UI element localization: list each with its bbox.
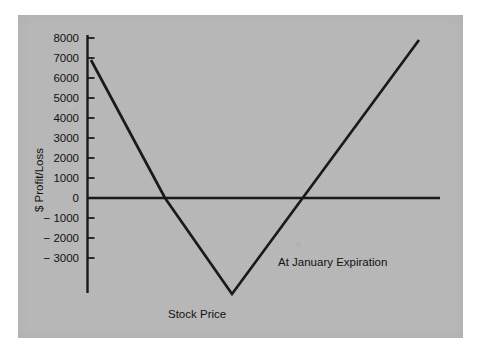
y-tick-label-minus-2000: − 2000	[25, 232, 79, 244]
expiration-annotation: At January Expiration	[278, 256, 387, 268]
y-tick-label-6000: 6000	[31, 72, 79, 84]
y-tick-label-minus-3000: − 3000	[25, 252, 79, 264]
chart-figure: 8000 7000 6000 5000 4000 3000 2000 1000 …	[0, 0, 477, 357]
y-tick-label-3000: 3000	[31, 132, 79, 144]
y-tick-label-7000: 7000	[31, 52, 79, 64]
x-axis-title: Stock Price	[168, 308, 226, 320]
y-tick-label-4000: 4000	[31, 112, 79, 124]
y-tick-label-8000: 8000	[31, 32, 79, 44]
y-axis-title: $ Profit/Loss	[33, 148, 45, 212]
y-tick-label-5000: 5000	[31, 92, 79, 104]
y-tick-label-minus-1000: − 1000	[25, 212, 79, 224]
